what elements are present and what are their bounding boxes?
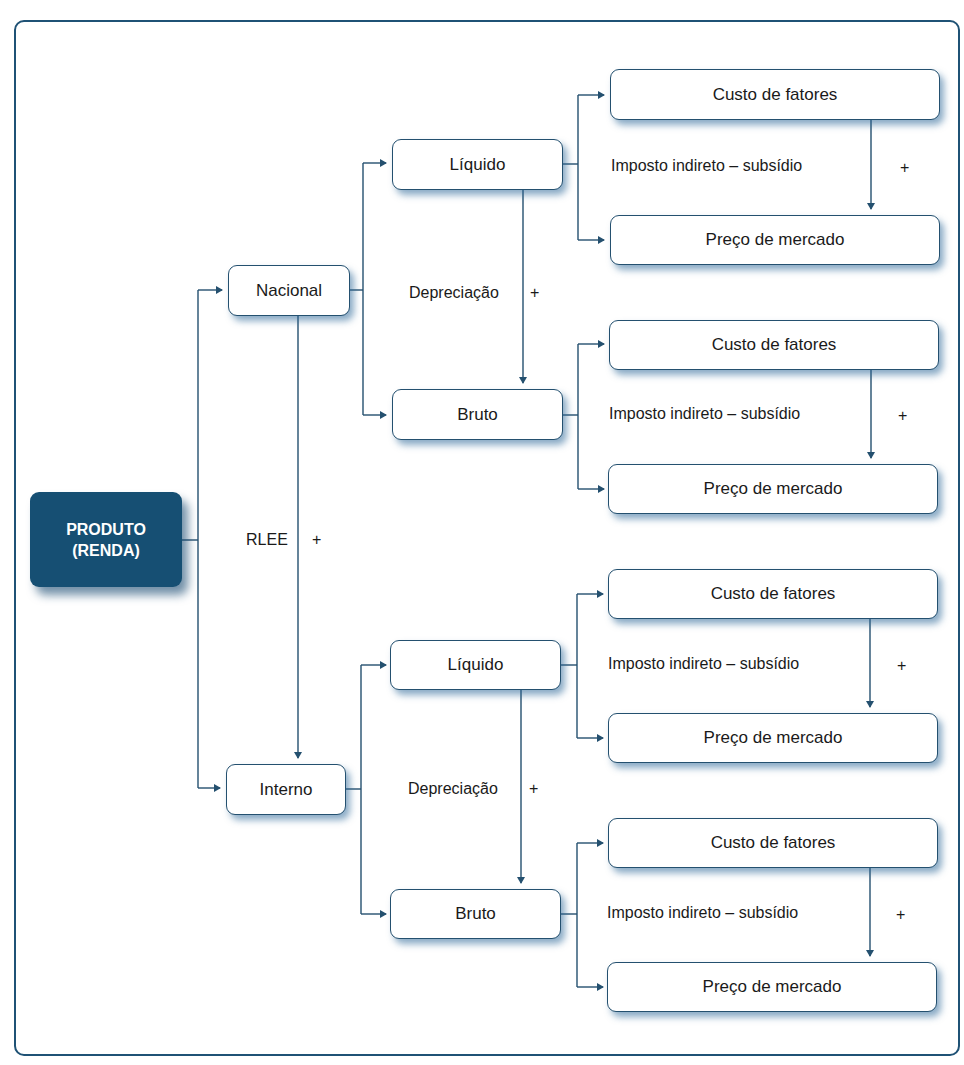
imposto-plus-1: + [900,159,909,177]
node-bruto-nacional: Bruto [392,389,563,440]
node-liquido-nacional: Líquido [392,139,563,190]
node-liquido-interno: Líquido [390,640,561,690]
node-preco-mercado-4-label: Preço de mercado [703,977,842,997]
depreciacao-label-interno: Depreciação [408,780,498,798]
depreciacao-label-nacional: Depreciação [409,284,499,302]
node-nacional: Nacional [228,265,350,316]
node-custo-fatores-3-label: Custo de fatores [711,584,836,604]
node-custo-fatores-4-label: Custo de fatores [711,833,836,853]
node-bruto-interno: Bruto [390,889,561,939]
imposto-plus-3: + [897,657,906,675]
imposto-plus-4: + [896,906,905,924]
node-preco-mercado-1-label: Preço de mercado [706,230,845,250]
node-liquido-nacional-label: Líquido [450,155,506,175]
node-preco-mercado-2-label: Preço de mercado [704,479,843,499]
node-custo-fatores-3: Custo de fatores [608,569,938,619]
node-preco-mercado-1: Preço de mercado [610,215,940,265]
node-interno-label: Interno [260,780,313,800]
node-custo-fatores-2-label: Custo de fatores [712,335,837,355]
node-custo-fatores-4: Custo de fatores [608,818,938,868]
imposto-label-1: Imposto indireto – subsídio [611,157,802,175]
node-preco-mercado-3-label: Preço de mercado [704,728,843,748]
node-bruto-nacional-label: Bruto [457,405,498,425]
node-preco-mercado-4: Preço de mercado [607,962,937,1012]
node-preco-mercado-2: Preço de mercado [608,464,938,514]
rlee-label: RLEE [246,531,288,549]
root-node-produto: PRODUTO (RENDA) [30,492,182,587]
root-node-line1: PRODUTO [66,519,146,540]
node-custo-fatores-2: Custo de fatores [609,320,939,370]
depreciacao-plus-nacional: + [530,284,539,302]
root-node-line2: (RENDA) [72,540,140,561]
node-bruto-interno-label: Bruto [455,904,496,924]
node-nacional-label: Nacional [256,281,322,301]
node-interno: Interno [226,764,346,815]
node-custo-fatores-1-label: Custo de fatores [713,85,838,105]
node-liquido-interno-label: Líquido [448,655,504,675]
rlee-plus: + [312,531,321,549]
imposto-label-3: Imposto indireto – subsídio [608,655,799,673]
imposto-label-4: Imposto indireto – subsídio [607,904,798,922]
node-preco-mercado-3: Preço de mercado [608,713,938,763]
node-custo-fatores-1: Custo de fatores [610,69,940,120]
depreciacao-plus-interno: + [529,780,538,798]
imposto-plus-2: + [898,407,907,425]
imposto-label-2: Imposto indireto – subsídio [609,405,800,423]
